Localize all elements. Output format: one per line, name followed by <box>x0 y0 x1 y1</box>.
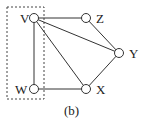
node-Z <box>82 14 91 23</box>
node-label-Z: Z <box>96 12 104 25</box>
node-X <box>82 85 91 94</box>
node-label-V: V <box>20 12 29 25</box>
node-label-X: X <box>96 83 105 96</box>
node-V <box>30 14 39 23</box>
node-label-Y: Y <box>129 47 138 60</box>
caption: (b) <box>64 104 79 117</box>
node-Y <box>115 49 124 58</box>
node-W <box>30 85 39 94</box>
node-label-W: W <box>15 83 27 96</box>
graph-diagram: VZYXW (b) <box>0 0 149 124</box>
